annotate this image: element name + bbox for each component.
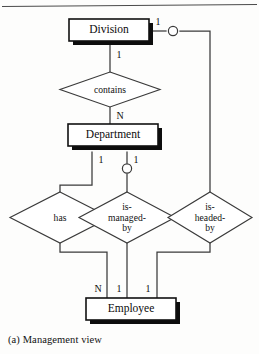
marker-circle-department-managed-by (122, 164, 131, 173)
relationship-is-headed-by[interactable]: is- headed- by (168, 192, 252, 243)
relationship-contains[interactable]: contains (60, 72, 160, 107)
top-rule (2, 5, 257, 7)
cardinality-contains-department: N (116, 110, 123, 121)
er-diagram-figure: contains has is- managed- by is- headed-… (0, 0, 259, 354)
has-label: has (54, 212, 67, 223)
entity-department[interactable]: Department (68, 124, 162, 150)
is-headed-by-label-line2: headed- (195, 212, 225, 223)
edge-is-headed-by-employee (157, 243, 210, 298)
cardinality-division-is-headed-by: 1 (156, 16, 161, 27)
is-managed-by-label-line1: is- (122, 201, 132, 212)
figure-caption: (a) Management view (8, 334, 102, 345)
relationship-is-managed-by[interactable]: is- managed- by (79, 192, 175, 243)
is-managed-by-label-line3: by (122, 222, 132, 233)
entity-division[interactable]: Division (69, 19, 153, 45)
division-label: Division (89, 23, 129, 35)
entity-employee[interactable]: Employee (86, 298, 180, 324)
is-headed-by-label-line3: by (205, 222, 215, 233)
department-label: Department (86, 128, 141, 141)
edge-department-has (60, 152, 92, 192)
er-diagram-canvas: contains has is- managed- by is- headed-… (0, 0, 259, 354)
contains-label: contains (94, 84, 126, 95)
cardinality-division-contains: 1 (117, 49, 122, 60)
cardinality-department-is-managed-by: 1 (134, 154, 139, 165)
marker-circle-division-headed-by (168, 26, 177, 35)
cardinality-has-employee: N (94, 283, 101, 294)
edge-marker-to-is-headed-by (180, 31, 210, 192)
employee-label: Employee (108, 302, 155, 315)
cardinality-department-has: 1 (99, 154, 104, 165)
cardinality-is-headed-by-employee: 1 (146, 283, 151, 294)
cardinality-is-managed-by-employee: 1 (117, 283, 122, 294)
is-managed-by-label-line2: managed- (108, 212, 146, 223)
is-headed-by-label-line1: is- (205, 201, 215, 212)
